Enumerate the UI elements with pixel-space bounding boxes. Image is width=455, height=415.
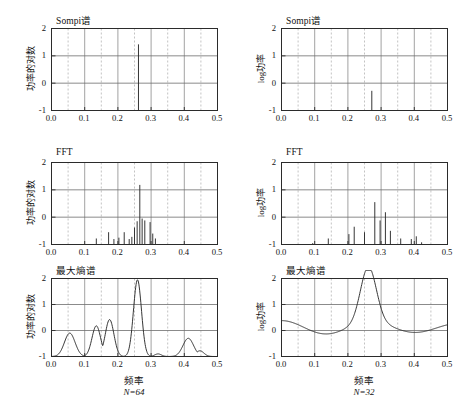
- plot-area-fft-left: [51, 162, 219, 246]
- x-tick-mem-left-0: 0.0: [46, 359, 57, 369]
- plot-area-mem-right: [281, 278, 449, 358]
- y-axis-label-sompi-right: log功率: [254, 34, 267, 104]
- y-tick-mem-right-3: -1: [259, 351, 276, 361]
- y-tick-fft-left-2: 0: [29, 212, 46, 222]
- x-tick-sompi-right-3: 0.3: [375, 113, 386, 123]
- x-tick-sompi-left-0: 0.0: [46, 113, 57, 123]
- x-tick-fft-left-3: 0.3: [145, 247, 156, 257]
- x-tick-mem-right-1: 0.1: [309, 359, 320, 369]
- y-tick-mem-right-1: 1: [259, 299, 276, 309]
- x-tick-fft-right-0: 0.0: [276, 247, 287, 257]
- y-axis-label-fft-right: log功率: [254, 168, 267, 238]
- x-tick-fft-left-1: 0.1: [79, 247, 90, 257]
- y-tick-mem-left-2: 0: [29, 325, 46, 335]
- x-tick-mem-right-0: 0.0: [276, 359, 287, 369]
- plot-area-fft-right: [281, 162, 449, 246]
- y-tick-sompi-right-1: 1: [259, 50, 276, 60]
- y-tick-mem-right-2: 0: [259, 325, 276, 335]
- sample-size-caption-mem-left: N=64: [51, 387, 217, 397]
- panel-title-fft-left: FFT: [56, 147, 73, 157]
- x-tick-sompi-left-1: 0.1: [79, 113, 90, 123]
- sample-size-caption-mem-right: N=32: [281, 387, 447, 397]
- y-tick-sompi-left-0: 2: [29, 23, 46, 33]
- x-tick-sompi-right-4: 0.4: [408, 113, 419, 123]
- y-tick-fft-right-3: -1: [259, 239, 276, 249]
- plot-area-mem-left: [51, 278, 219, 358]
- x-tick-mem-right-3: 0.3: [375, 359, 386, 369]
- y-axis-label-mem-right: log功率: [254, 282, 267, 352]
- y-tick-mem-right-0: 2: [259, 273, 276, 283]
- y-tick-sompi-left-1: 1: [29, 50, 46, 60]
- plot-area-sompi-right: [281, 28, 449, 112]
- x-tick-mem-left-1: 0.1: [79, 359, 90, 369]
- y-tick-sompi-right-3: -1: [259, 105, 276, 115]
- y-tick-sompi-right-0: 2: [259, 23, 276, 33]
- y-tick-sompi-right-2: 0: [259, 78, 276, 88]
- y-axis-label-fft-left: 功率的对数: [24, 168, 37, 238]
- figure-spectral-comparison: Sompi谱功率的对数210-10.00.10.20.30.40.5Sompi谱…: [0, 0, 455, 415]
- panel-title-mem-left: 最大熵谱: [56, 263, 96, 277]
- x-tick-fft-left-4: 0.4: [178, 247, 189, 257]
- x-tick-mem-left-4: 0.4: [178, 359, 189, 369]
- panel-title-fft-right: FFT: [286, 147, 303, 157]
- x-tick-mem-left-2: 0.2: [112, 359, 123, 369]
- y-tick-mem-left-3: -1: [29, 351, 46, 361]
- x-tick-mem-right-2: 0.2: [342, 359, 353, 369]
- plot-area-sompi-left: [51, 28, 219, 112]
- x-tick-fft-right-1: 0.1: [309, 247, 320, 257]
- x-tick-mem-right-4: 0.4: [408, 359, 419, 369]
- panel-title-sompi-left: Sompi谱: [56, 13, 91, 27]
- y-tick-fft-left-3: -1: [29, 239, 46, 249]
- x-tick-fft-right-2: 0.2: [342, 247, 353, 257]
- x-tick-sompi-right-5: 0.5: [442, 113, 453, 123]
- y-tick-mem-left-0: 2: [29, 273, 46, 283]
- y-axis-label-sompi-left: 功率的对数: [24, 34, 37, 104]
- x-tick-fft-left-2: 0.2: [112, 247, 123, 257]
- x-tick-mem-left-5: 0.5: [212, 359, 223, 369]
- x-tick-sompi-left-3: 0.3: [145, 113, 156, 123]
- x-axis-label-mem-left: 频率: [51, 373, 217, 387]
- y-tick-fft-right-0: 2: [259, 157, 276, 167]
- y-tick-sompi-left-3: -1: [29, 105, 46, 115]
- x-tick-mem-right-5: 0.5: [442, 359, 453, 369]
- x-axis-label-mem-right: 频率: [281, 373, 447, 387]
- x-tick-mem-left-3: 0.3: [145, 359, 156, 369]
- x-tick-sompi-left-2: 0.2: [112, 113, 123, 123]
- y-tick-fft-right-1: 1: [259, 184, 276, 194]
- x-tick-sompi-right-2: 0.2: [342, 113, 353, 123]
- y-tick-sompi-left-2: 0: [29, 78, 46, 88]
- y-tick-mem-left-1: 1: [29, 299, 46, 309]
- x-tick-sompi-right-1: 0.1: [309, 113, 320, 123]
- x-tick-sompi-right-0: 0.0: [276, 113, 287, 123]
- panel-title-sompi-right: Sompi谱: [286, 13, 321, 27]
- panel-title-mem-right: 最大熵谱: [286, 263, 326, 277]
- x-tick-fft-right-4: 0.4: [408, 247, 419, 257]
- x-tick-fft-left-5: 0.5: [212, 247, 223, 257]
- x-tick-fft-right-3: 0.3: [375, 247, 386, 257]
- x-tick-fft-right-5: 0.5: [442, 247, 453, 257]
- y-tick-fft-left-1: 1: [29, 184, 46, 194]
- y-tick-fft-left-0: 2: [29, 157, 46, 167]
- x-tick-sompi-left-5: 0.5: [212, 113, 223, 123]
- x-tick-fft-left-0: 0.0: [46, 247, 57, 257]
- y-axis-label-mem-left: 功率的对数: [24, 282, 37, 352]
- x-tick-sompi-left-4: 0.4: [178, 113, 189, 123]
- y-tick-fft-right-2: 0: [259, 212, 276, 222]
